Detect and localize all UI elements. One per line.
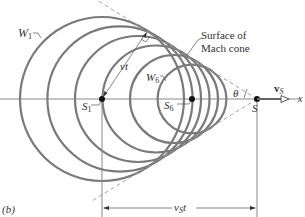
w1-leader: [33, 33, 41, 38]
mach-cone-diagram: W1 vt W6 S1 S6 S θ vS x Surface of Mach …: [0, 0, 305, 217]
vst-arrow-right: [250, 206, 256, 210]
label-x-axis: x: [297, 93, 303, 104]
label-vs: vS: [274, 82, 284, 96]
label-vst: vSt: [174, 201, 187, 215]
source-point-s6: [189, 96, 195, 102]
s1-leader: [91, 101, 101, 105]
label-theta: θ: [233, 87, 239, 99]
panel-label: (b): [2, 203, 15, 216]
vst-arrow-left: [103, 206, 109, 210]
mach-cone-leader: [187, 38, 202, 55]
label-s: S: [252, 102, 258, 114]
label-s1: S1: [82, 100, 92, 114]
label-vt: vt: [120, 60, 129, 72]
theta-leader: [244, 89, 247, 98]
source-point-s1: [99, 96, 105, 102]
label-s6: S6: [164, 99, 174, 113]
label-mach-cone-line1: Surface of: [201, 29, 247, 41]
label-mach-cone-line2: Mach cone: [201, 42, 250, 54]
label-w1: W1: [18, 26, 32, 41]
velocity-arrowhead: [281, 96, 289, 103]
label-w6: W6: [146, 71, 159, 85]
